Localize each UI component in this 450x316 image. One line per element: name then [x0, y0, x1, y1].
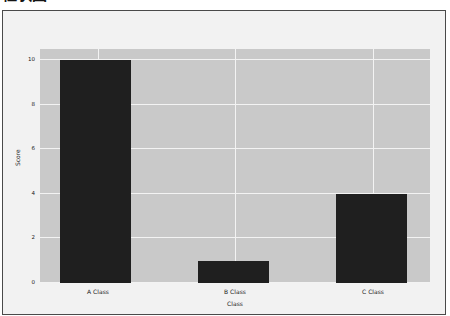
xtick-label-c-class: C Class	[362, 288, 384, 295]
xtick-label-b-class: B Class	[224, 288, 246, 295]
bar-b-class[interactable]	[198, 261, 269, 283]
gridline-x-b-class	[235, 49, 236, 283]
ytick-label-0: 0	[32, 279, 36, 285]
ytick-label-4: 4	[32, 190, 36, 196]
y-axis-label: Score	[14, 149, 21, 166]
bar-c-class[interactable]	[336, 194, 407, 283]
plot-area: 0 2 4 6 8 10 A Class B Class C Class	[40, 49, 430, 283]
ytick-label-10: 10	[28, 56, 35, 62]
clipped-heading: 柱状图	[2, 0, 47, 3]
ytick-label-6: 6	[32, 145, 36, 151]
figure-panel: 0 2 4 6 8 10 A Class B Class C Class Sco…	[2, 10, 446, 315]
x-axis-label: Class	[227, 300, 243, 307]
bar-a-class[interactable]	[60, 60, 131, 283]
xtick-label-a-class: A Class	[87, 288, 109, 295]
ytick-label-2: 2	[32, 234, 36, 240]
ytick-label-8: 8	[32, 101, 36, 107]
